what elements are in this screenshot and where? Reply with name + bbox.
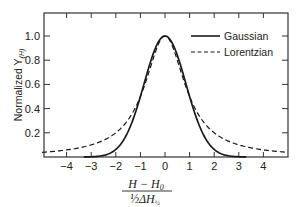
y-tick-label: 0.2 — [25, 127, 40, 139]
x-tick-label: −3 — [85, 160, 98, 172]
x-tick-label: 1 — [187, 160, 193, 172]
y-tick-label: 0.4 — [25, 103, 40, 115]
x-tick-label: 2 — [211, 160, 217, 172]
y-tick-label: 0.6 — [25, 78, 40, 90]
svg-text:½ΔH½: ½ΔH½ — [130, 192, 161, 207]
x-axis-label-denominator-sub: ½ — [155, 199, 161, 207]
y-tick-label: 1.0 — [25, 30, 40, 42]
legend-label-gaussian: Gaussian — [224, 30, 269, 42]
svg-text:H − H0: H − H0 — [127, 177, 163, 192]
legend: Gaussian Lorentzian — [191, 30, 273, 58]
x-axis-label: H − H0 ½ΔH½ — [122, 177, 172, 207]
x-tick-label: 4 — [260, 160, 266, 172]
x-tick-label: 3 — [236, 160, 242, 172]
series-gaussian — [84, 36, 246, 157]
y-tick-label: 0.8 — [25, 54, 40, 66]
y-axis-label-main: Normalized Y — [12, 58, 24, 121]
y-axis-label-sub: (H) — [18, 49, 26, 59]
x-tick-label: −4 — [60, 160, 73, 172]
svg-text:Normalized Y(H): Normalized Y(H) — [12, 49, 26, 122]
x-tick-label: 0 — [162, 160, 168, 172]
x-tick-label: −2 — [110, 160, 123, 172]
line-chart: −4−3−2−101234 0.20.40.60.81.0 Gaussian L… — [0, 0, 302, 207]
x-tick-label: −1 — [134, 160, 147, 172]
legend-label-lorentzian: Lorentzian — [224, 46, 273, 58]
y-axis-label: Normalized Y(H) — [12, 49, 26, 122]
x-axis-label-denominator: ½ΔH — [130, 192, 156, 206]
x-axis-label-numerator: H − H — [127, 177, 161, 191]
